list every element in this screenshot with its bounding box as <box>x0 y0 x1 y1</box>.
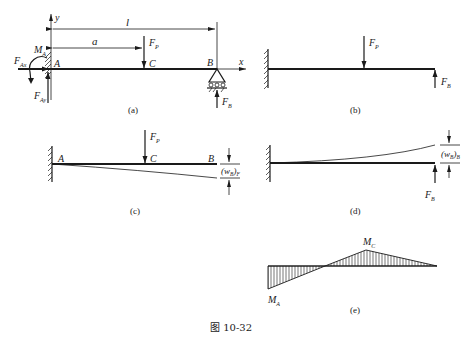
panel-c-label: (c) <box>130 206 140 216</box>
deflection-label-d: (wB)B <box>441 149 460 160</box>
force-b-label-b: FB <box>440 76 451 89</box>
point-b-label: B <box>207 57 213 68</box>
figure-caption: 图 10-32 <box>210 322 252 333</box>
moment-negative-region <box>268 266 325 289</box>
force-b-label-d: FB <box>424 189 435 202</box>
point-a-label-c: A <box>57 153 65 164</box>
deflection-curve-d <box>270 145 435 163</box>
panel-d-label: (d) <box>350 206 361 216</box>
dimension-a-label: a <box>92 35 98 47</box>
force-ax-label: FAx <box>13 55 27 68</box>
moment-c-label: MC <box>362 236 376 249</box>
x-axis-label: x <box>238 56 244 67</box>
panel-e-moment-diagram: MC MA (e) <box>267 236 437 315</box>
panel-e-label: (e) <box>350 305 360 315</box>
beam-diagram-figure: y x l a FP C A MA FAx <box>0 0 469 339</box>
moment-a-label: MA <box>33 44 46 57</box>
moment-arrowhead <box>28 78 34 84</box>
point-b-label-c: B <box>208 153 214 164</box>
dimension-l-label: l <box>126 16 129 28</box>
panel-a: y x l a FP C A MA FAx <box>13 12 246 115</box>
deflection-label-c: (wB)F <box>221 166 240 177</box>
panel-d: FB (wB)B (d) <box>266 130 460 216</box>
point-c-label-c: C <box>150 153 157 164</box>
roller-support-b <box>207 69 227 92</box>
point-a-label: A <box>53 58 61 69</box>
panel-b: FP FB (b) <box>264 36 451 115</box>
panel-b-label: (b) <box>350 105 361 115</box>
panel-a-label: (a) <box>128 105 138 115</box>
panel-c: FP A C B (wB)F (c) <box>48 130 240 216</box>
force-p-label-b: FP <box>368 37 379 50</box>
force-p-label: FP <box>148 37 159 50</box>
force-b-label: FB <box>221 96 232 109</box>
moment-positive-region <box>325 250 437 266</box>
deflection-curve-c <box>52 164 217 178</box>
y-axis-label: y <box>54 12 60 23</box>
point-c-label: C <box>149 58 156 69</box>
force-p-label-c: FP <box>149 131 160 144</box>
force-ay-label: FAy <box>33 90 46 103</box>
moment-a-label-e: MA <box>267 294 280 307</box>
